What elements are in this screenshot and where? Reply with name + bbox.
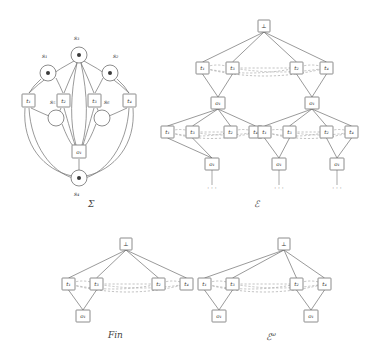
epsilon-l3r-o-edge-1-1 [279,138,290,158]
epsilon-e-t2-o1 [297,74,313,97]
node-label: t₁ [26,98,31,104]
epsilon-l3r-o-1: o₁ [272,158,286,170]
epsilon-l3l-edge-3 [218,109,256,126]
arc-t4-s6 [109,108,127,116]
fin-l1-1: t₃ [90,278,103,290]
epsilon-e-t4-o1 [312,74,327,97]
epsilon-e-t1-o1 [203,74,219,97]
node-label: t₂ [228,129,233,135]
place-label: s₂ [113,52,119,59]
node-label: t₁ [202,281,207,287]
node-label: t₂ [324,129,329,135]
epsilon-l1-1: t₃ [226,62,239,74]
fin-l1-3: t₄ [180,278,193,290]
place-s3: s₃ [71,34,87,63]
eomega-edge-root-1 [233,250,285,278]
sigma-diagram: s₁s₂s₃s₄s₅s₆ t₁t₂t₃t₄o₁ [22,34,136,197]
fin-root: ⊥ [120,238,132,250]
node-label: t₃ [230,281,235,287]
epsilon-ellipses: · · ·· · ·· · · [207,170,342,191]
epsilon-l3l-o-0: o₁ [205,158,219,170]
node-label: o₁ [215,100,221,106]
eomega-e-t2-o1 [297,290,312,310]
epsilon-e-t3-o1 [218,74,233,97]
eomega-l2-1: o₁ [304,310,318,322]
epsilon-omega-diagram: ⊥t₁t₃t₂t₄o₁o₁ [198,238,331,322]
sigma-arcs [25,61,134,178]
epsilon-l3r-0: t₁ [258,126,271,138]
node-label: t₃ [287,129,292,135]
token-dot [77,176,81,180]
eomega-e-t1-o1 [205,290,220,310]
token-dot [77,53,81,57]
fin-conf-b [69,284,187,292]
fin-edge-root-2 [126,250,159,278]
transition-t4: t₄ [123,94,136,107]
node-label: t₁ [200,65,205,71]
eomega-l1-1: t₃ [226,278,239,290]
epsilon-nodes: ⊥t₁t₃t₂t₄o₁o₁t₁t₃t₂t₄o₁t₁t₃t₂t₄o₁o₁ [161,20,358,170]
arc-s5-o1 [62,124,73,146]
place-s2: s₂ [102,52,119,81]
node-label: o₁ [209,161,215,167]
epsilon-ellipsis-1: · · · [274,184,284,191]
node-label: ⊥ [261,23,266,29]
caption-epsilon: ℰ [254,199,259,209]
epsilon-l3r-o-edge-2-2 [327,138,338,158]
eomega-edge-root-0 [205,250,285,278]
node-label: t₂ [61,98,66,104]
caption-sigma: Σ [88,199,94,209]
epsilon-l1-0: t₁ [196,62,209,74]
sigma-transitions: t₁t₂t₃t₄o₁ [22,94,136,158]
token-dot [46,71,50,75]
epsilon-l3r-o-edge-2-3 [337,138,352,158]
node-label: t₁ [262,129,267,135]
eomega-conf-b [205,284,325,292]
eomega-l1-3: t₄ [318,278,331,290]
caption-epsilon-omega: ℰω [266,330,276,342]
node-label: o₁ [216,313,222,319]
node-label: t₁ [66,281,71,287]
epsilon-ellipsis-0: · · · [207,184,217,191]
arc-s3-t3 [81,63,94,93]
node-label: t₄ [349,129,354,135]
place-label: s₃ [74,34,80,41]
eomega-l2-0: o₁ [212,310,226,322]
transition-o1: o₁ [72,145,86,158]
epsilon-l1-2: t₂ [290,62,303,74]
node-label: t₂ [294,281,299,287]
eomega-root: ⊥ [278,238,290,250]
node-label: o₁ [76,149,82,155]
epsilon-l3r-edge-3 [312,109,352,126]
node-label: ⊥ [281,241,286,247]
epsilon-l3r-o-edge-1-0 [265,138,280,158]
fin-l2-0: o₁ [76,310,90,322]
epsilon-l3l-o-edge-0-0 [168,138,213,158]
epsilon-l3r-3: t₄ [345,126,358,138]
node-label: t₂ [156,281,161,287]
fin-edge-root-3 [126,250,187,278]
transition-t2: t₂ [57,94,70,107]
place-label: s₄ [74,190,80,197]
figure-svg: s₁s₂s₃s₄s₅s₆ t₁t₂t₃t₄o₁ ⊥t₁t₃t₂t₄o₁o₁t₁t… [0,0,376,355]
epsilon-l2-1: o₁ [305,97,319,109]
node-label: ⊥ [123,241,128,247]
arc-s6-o1 [85,124,96,146]
arc-s1-t2 [56,78,63,93]
fin-edges [69,250,187,310]
node-label: t₄ [322,281,327,287]
epsilon-edge-root-2 [264,32,297,62]
fin-l1-2: t₂ [152,278,165,290]
eomega-e-t4-o1 [311,290,325,310]
eomega-e-t3-o1 [219,290,233,310]
epsilon-omega-edges [205,250,325,310]
node-label: t₂ [294,65,299,71]
node-label: o₁ [309,100,315,106]
arc-s2-t3 [95,78,103,93]
place-circle [94,110,110,126]
eomega-l1-2: t₂ [290,278,303,290]
place-label: s₁ [42,52,47,59]
epsilon-edge-root-1 [233,32,265,62]
arc-t1-s5 [31,108,49,116]
arc-s3-o1-b [81,63,86,145]
